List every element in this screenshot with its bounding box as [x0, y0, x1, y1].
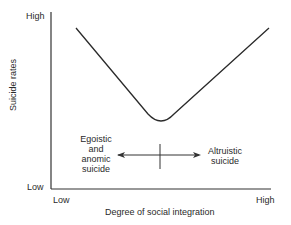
- annotation-line: suicide: [200, 156, 250, 166]
- x-low-label: Low: [53, 195, 70, 205]
- annotation-line: Altruistic: [200, 146, 250, 156]
- x-axis-title: Degree of social integration: [105, 207, 215, 217]
- annotation-line: anomic: [76, 154, 116, 164]
- y-axis-title: Suicide rates: [8, 59, 18, 111]
- annotation-line: Egoistic: [76, 134, 116, 144]
- annotation-line: suicide: [76, 164, 116, 174]
- annotation-line: and: [76, 144, 116, 154]
- altruistic-annotation: Altruistic suicide: [200, 146, 250, 166]
- y-high-label: High: [26, 11, 45, 21]
- y-low-label: Low: [27, 182, 44, 192]
- suicide-rate-curve: [76, 28, 269, 121]
- x-high-label: High: [256, 195, 275, 205]
- egoistic-anomic-annotation: Egoistic and anomic suicide: [76, 134, 116, 174]
